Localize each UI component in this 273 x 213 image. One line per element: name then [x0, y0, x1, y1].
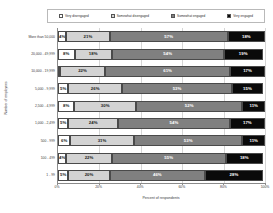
- bar-segment-value: 6%: [61, 139, 67, 143]
- legend-item-somewhat-disengaged: Somewhat disengaged: [111, 14, 149, 18]
- bar-segment[interactable]: 53%: [122, 83, 232, 94]
- bar-segment-value: 24%: [89, 121, 98, 125]
- bar-segment-value: 54%: [163, 52, 172, 56]
- bar-row[interactable]: 5%26%53%15%: [58, 83, 265, 94]
- bar-segment[interactable]: 4%: [58, 31, 66, 42]
- legend-item-very-disengaged: Very disengaged: [59, 14, 89, 18]
- bar-segment[interactable]: 11%: [242, 135, 265, 146]
- bar-segment[interactable]: 26%: [68, 83, 122, 94]
- bar-segment[interactable]: 31%: [70, 135, 134, 146]
- bar-row[interactable]: 4%22%55%18%: [58, 153, 265, 164]
- bar-segment[interactable]: 5%: [58, 170, 68, 181]
- bar-segment-value: 5%: [60, 173, 66, 177]
- bar-row[interactable]: 5%20%46%28%: [58, 170, 265, 181]
- bar-segment[interactable]: 55%: [112, 153, 226, 164]
- y-axis-category-label: 100 - 499: [7, 153, 55, 164]
- bar-segment[interactable]: 54%: [112, 49, 224, 60]
- bar-segment[interactable]: 22%: [60, 66, 105, 77]
- bar-segment-value: 31%: [98, 139, 107, 143]
- legend-swatch-icon: [111, 14, 115, 18]
- bar-row[interactable]: 0%22%61%17%: [58, 66, 265, 77]
- bar-segment-value: 26%: [91, 87, 100, 91]
- bar-row[interactable]: 5%24%54%17%: [58, 118, 265, 129]
- y-axis-category-label: 2,500 - 4,999: [7, 101, 55, 112]
- bar-segment-value: 4%: [59, 156, 65, 160]
- bar-segment[interactable]: 22%: [66, 153, 112, 164]
- y-axis-category-label: 10,000 - 19,999: [7, 66, 55, 77]
- bar-row[interactable]: 6%31%53%11%: [58, 135, 265, 146]
- engagement-by-company-size-chart: Very disengaged Somewhat disengaged Some…: [0, 0, 273, 213]
- bar-segment-value: 20%: [85, 173, 94, 177]
- bar-row[interactable]: 8%18%54%19%: [58, 49, 265, 60]
- x-axis-tick-label: 100%: [261, 185, 270, 189]
- bar-segment[interactable]: 54%: [118, 118, 230, 129]
- bar-segment-value: 28%: [230, 173, 239, 177]
- bar-segment-value: 55%: [164, 156, 173, 160]
- bar-segment-value: 11%: [249, 139, 258, 143]
- x-axis-tick-label: 80%: [220, 185, 227, 189]
- bar-segment-value: 8%: [63, 52, 69, 56]
- bar-segment[interactable]: 46%: [110, 170, 205, 181]
- bar-segment-value: 61%: [163, 69, 172, 73]
- legend-swatch-icon: [227, 14, 231, 18]
- bar-segment[interactable]: 18%: [75, 49, 112, 60]
- bar-segment-value: 17%: [243, 69, 252, 73]
- legend-swatch-icon: [171, 14, 175, 18]
- bar-row[interactable]: 8%30%52%11%: [58, 101, 265, 112]
- bar-segment-value: 19%: [239, 52, 248, 56]
- legend-item-very-engaged: Very engaged: [227, 14, 253, 18]
- bar-segment[interactable]: 18%: [226, 153, 263, 164]
- bar-segment[interactable]: 52%: [136, 101, 243, 112]
- bar-segment-value: 18%: [89, 52, 98, 56]
- bar-segment-value: 22%: [85, 156, 94, 160]
- bar-segment-value: 30%: [101, 104, 110, 108]
- bar-segment-value: 11%: [249, 104, 258, 108]
- legend-label: Somewhat disengaged: [117, 14, 149, 18]
- bar-segment[interactable]: 8%: [58, 49, 75, 60]
- bar-segment[interactable]: 6%: [58, 135, 70, 146]
- bar-segment[interactable]: 15%: [232, 83, 263, 94]
- bar-segment[interactable]: 5%: [58, 118, 68, 129]
- bar-segment[interactable]: 20%: [68, 170, 109, 181]
- gridline: [265, 28, 266, 184]
- y-axis-category-label: 1 - 99: [7, 170, 55, 181]
- legend-label: Very disengaged: [65, 14, 89, 18]
- x-axis-tick-label: 0%: [55, 185, 60, 189]
- bar-segment-value: 15%: [243, 87, 252, 91]
- bar-segment[interactable]: 30%: [74, 101, 135, 112]
- legend-label: Very engaged: [233, 14, 253, 18]
- bar-segment[interactable]: 24%: [68, 118, 118, 129]
- y-axis-category-label: 20,000 - 49,999: [7, 49, 55, 60]
- bar-segment-value: 54%: [170, 121, 179, 125]
- y-axis-category-label: More than 50,000: [7, 31, 55, 42]
- bar-segment[interactable]: 18%: [228, 31, 265, 42]
- bar-segment[interactable]: 5%: [58, 83, 68, 94]
- bar-segment[interactable]: 17%: [230, 118, 265, 129]
- bar-segment-value: 53%: [184, 139, 193, 143]
- bar-segment[interactable]: 28%: [205, 170, 263, 181]
- bar-segment-value: 5%: [60, 87, 66, 91]
- y-axis-category-label: 5,000 - 9,999: [7, 83, 55, 94]
- bar-segment[interactable]: 57%: [110, 31, 228, 42]
- bar-segment[interactable]: 19%: [224, 49, 263, 60]
- bar-segment-value: 46%: [153, 173, 162, 177]
- chart-legend: Very disengaged Somewhat disengaged Some…: [47, 9, 265, 23]
- bar-segment-value: 22%: [78, 69, 87, 73]
- bar-segment-value: 8%: [63, 104, 69, 108]
- x-axis-line: [58, 183, 265, 184]
- bar-segment-value: 4%: [59, 35, 65, 39]
- bar-segment[interactable]: 53%: [134, 135, 243, 146]
- bar-segment-value: 17%: [243, 121, 252, 125]
- bar-segment[interactable]: 4%: [58, 153, 66, 164]
- bar-segment[interactable]: 17%: [230, 66, 265, 77]
- plot-area: 4%21%57%18%8%18%54%19%0%22%61%17%5%26%53…: [57, 28, 265, 184]
- x-axis-tick-label: 60%: [178, 185, 185, 189]
- bar-segment-value: 52%: [185, 104, 194, 108]
- x-axis-tick-label: 20%: [95, 185, 102, 189]
- bar-segment[interactable]: 61%: [105, 66, 230, 77]
- bar-row[interactable]: 4%21%57%18%: [58, 31, 265, 42]
- bar-segment[interactable]: 8%: [58, 101, 74, 112]
- y-axis-category-label: 500 - 999: [7, 135, 55, 146]
- bar-segment[interactable]: 11%: [242, 101, 265, 112]
- bar-segment[interactable]: 21%: [66, 31, 109, 42]
